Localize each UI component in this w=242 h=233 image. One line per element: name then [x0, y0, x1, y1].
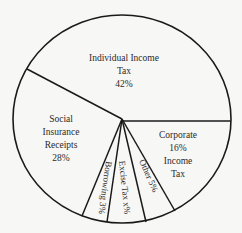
svg-text:Tax: Tax	[171, 169, 185, 179]
svg-text:Corporate: Corporate	[159, 130, 197, 140]
svg-text:Income: Income	[164, 156, 193, 166]
pie-chart: Individual Income Tax 42% Social Insuran…	[0, 0, 242, 233]
svg-text:Individual Income: Individual Income	[89, 53, 159, 63]
svg-text:Receipts: Receipts	[45, 140, 78, 150]
svg-text:16%: 16%	[169, 143, 187, 153]
svg-text:28%: 28%	[52, 153, 70, 163]
svg-text:Social: Social	[49, 114, 73, 124]
svg-text:Tax: Tax	[117, 66, 131, 76]
svg-text:42%: 42%	[115, 79, 133, 89]
svg-text:Insurance: Insurance	[43, 127, 80, 137]
